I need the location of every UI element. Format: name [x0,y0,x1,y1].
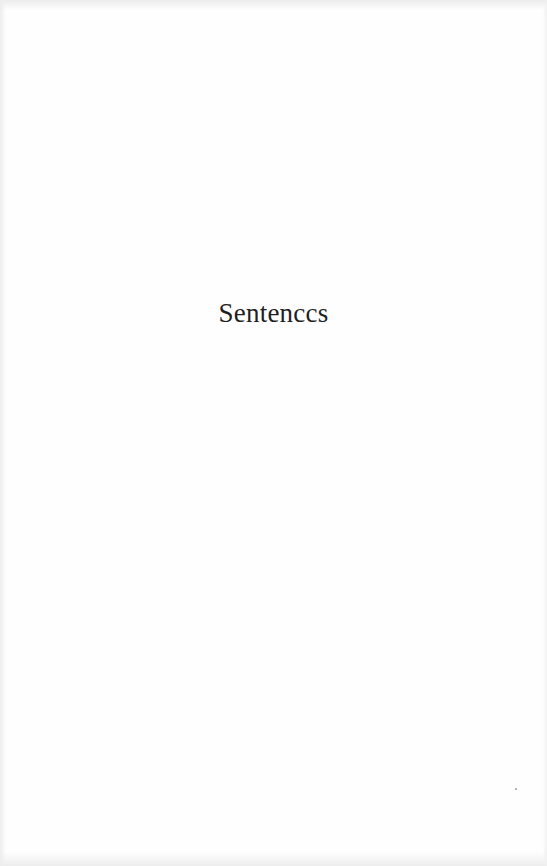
scan-edge-top [0,0,547,10]
scan-edge-right [543,0,547,866]
document-page: Sentenccs [0,0,547,866]
scan-speck [515,788,517,790]
page-title: Sentenccs [0,298,547,329]
scan-edge-bottom [0,852,547,866]
scan-edge-left [0,0,6,866]
